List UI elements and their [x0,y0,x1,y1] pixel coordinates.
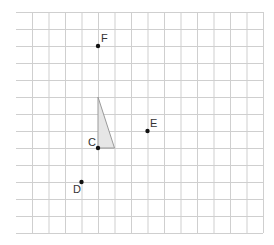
point-c-dot [96,146,100,150]
grid-lines [16,12,264,234]
point-label-d: D [73,184,81,195]
coordinate-grid [0,0,274,245]
point-f-dot [96,44,100,48]
point-e-dot [145,129,149,133]
point-label-f: F [101,33,108,44]
point-label-c: C [88,137,96,148]
point-label-e: E [150,118,157,129]
shaded-triangle [98,97,115,148]
